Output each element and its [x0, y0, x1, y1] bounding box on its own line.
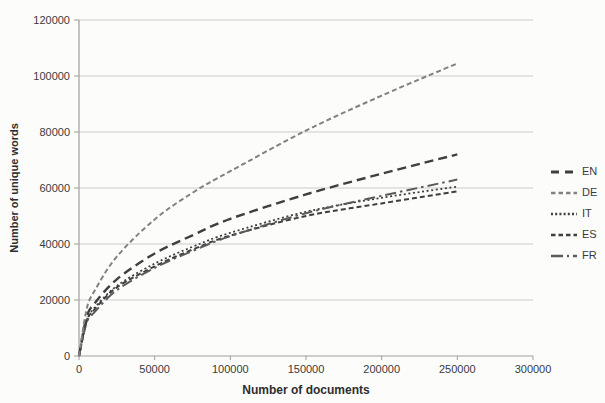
curve-EN — [79, 154, 457, 356]
y-tick-label: 20000 — [39, 294, 70, 306]
legend-item-en: EN — [551, 165, 597, 178]
x-tick-label: 150000 — [288, 363, 325, 375]
gridlines — [79, 20, 533, 300]
legend-key-line-icon — [551, 169, 577, 175]
axes — [74, 20, 533, 360]
chart-legend: EN DE IT ES FR — [551, 165, 597, 262]
legend-key-line-icon — [551, 253, 577, 259]
y-axis-title: Number of unique words — [8, 113, 20, 263]
x-tick-label: 0 — [76, 363, 82, 375]
legend-item-es: ES — [551, 228, 597, 241]
curve-DE — [79, 63, 457, 356]
x-axis-title: Number of documents — [79, 383, 533, 397]
legend-label: DE — [582, 186, 597, 199]
y-tick-label: 120000 — [33, 14, 70, 26]
legend-item-it: IT — [551, 207, 597, 220]
legend-label: IT — [582, 207, 592, 220]
x-tick-label: 50000 — [139, 363, 170, 375]
curve-IT — [79, 187, 457, 356]
x-tick-label: 300000 — [515, 363, 552, 375]
y-tick-label: 0 — [64, 350, 70, 362]
y-tick-label: 60000 — [39, 182, 70, 194]
curve-ES — [79, 191, 457, 356]
x-tick-label: 250000 — [439, 363, 476, 375]
tick-labels: 0500001000001500002000002500003000000200… — [33, 14, 551, 375]
y-tick-label: 40000 — [39, 238, 70, 250]
legend-label: EN — [582, 165, 597, 178]
y-tick-label: 100000 — [33, 70, 70, 82]
curves — [79, 63, 457, 356]
legend-key-line-icon — [551, 211, 577, 217]
vocabulary-growth-chart: 0500001000001500002000002500003000000200… — [0, 0, 605, 403]
chart-canvas: 0500001000001500002000002500003000000200… — [0, 0, 605, 403]
legend-key-line-icon — [551, 232, 577, 238]
y-tick-label: 80000 — [39, 126, 70, 138]
legend-label: ES — [582, 228, 597, 241]
x-tick-label: 200000 — [363, 363, 400, 375]
legend-key-line-icon — [551, 190, 577, 196]
legend-item-fr: FR — [551, 249, 597, 262]
legend-label: FR — [582, 249, 597, 262]
legend-item-de: DE — [551, 186, 597, 199]
x-tick-label: 100000 — [212, 363, 249, 375]
